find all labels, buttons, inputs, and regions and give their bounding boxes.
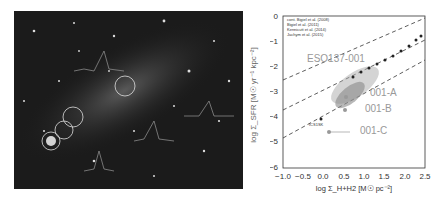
label-001b: 001-B (365, 103, 392, 114)
y-axis-label-left: log Σ_SFR [M☉ yr⁻¹ kpc⁻²] (238, 0, 268, 190)
svg-text:ICS1SK: ICS1SK (309, 122, 324, 127)
svg-text:−0.5: −0.5 (295, 172, 311, 181)
svg-text:2.0: 2.0 (399, 172, 411, 181)
svg-text:1.0: 1.0 (358, 172, 370, 181)
label-001a: 001-A (370, 87, 397, 98)
svg-text:2.5: 2.5 (419, 172, 431, 181)
svg-text:−4: −4 (270, 112, 279, 121)
svg-text:0.5: 0.5 (338, 172, 350, 181)
svg-text:−1: −1 (270, 37, 279, 46)
galaxy-image (14, 11, 243, 189)
svg-text:0.0: 0.0 (317, 172, 329, 181)
svg-text:−1.0: −1.0 (275, 172, 291, 181)
label-eso137: ESO137-001 (307, 53, 365, 64)
x-axis-label: log Σ_H+H2 [M☉ pc⁻²] (316, 184, 392, 193)
ylabel-text: log Σ_SFR [M☉ yr⁻¹ kpc⁻²] (249, 47, 258, 143)
svg-text:Jachym et al. (2015): Jachym et al. (2015) (287, 32, 324, 37)
scatter-plot: ESO137-001 001-A 001-B 001-C ICS1SK cont… (270, 0, 433, 197)
svg-text:−2: −2 (270, 62, 279, 71)
label-001c: 001-C (360, 125, 387, 136)
svg-text:−5: −5 (270, 137, 279, 146)
svg-text:−6: −6 (270, 163, 279, 172)
svg-text:1.5: 1.5 (378, 172, 390, 181)
svg-text:−3: −3 (270, 87, 279, 96)
svg-text:0: 0 (274, 12, 279, 21)
